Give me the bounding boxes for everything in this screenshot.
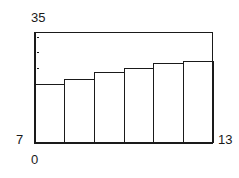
x-axis-max-label: 13 [218,133,232,146]
x-axis-min-label: 0 [31,153,38,166]
y-axis-min-label: 7 [16,133,23,146]
y-axis-max-label: 35 [31,11,45,24]
plot-frame [35,33,213,143]
chart-figure: 35 7 0 13 [0,0,239,178]
